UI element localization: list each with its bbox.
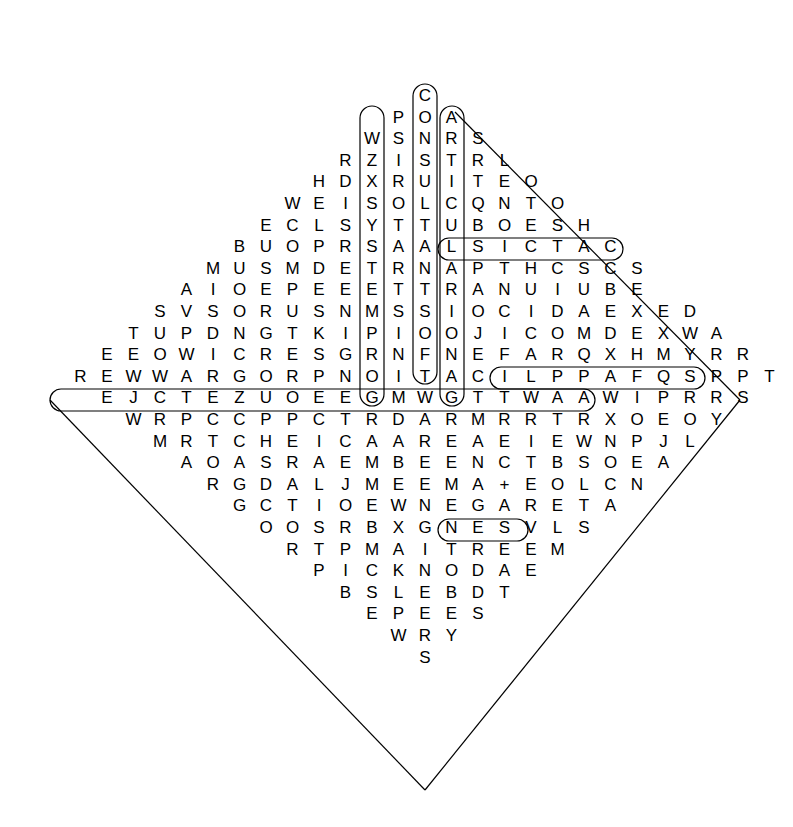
grid-letter[interactable]: U bbox=[440, 215, 464, 237]
grid-letter[interactable]: Y bbox=[678, 344, 702, 366]
grid-letter[interactable]: E bbox=[440, 495, 464, 517]
grid-letter[interactable]: R bbox=[413, 431, 437, 453]
grid-letter[interactable]: R bbox=[175, 431, 199, 453]
grid-letter[interactable]: P bbox=[307, 236, 331, 258]
grid-letter[interactable]: W bbox=[413, 387, 437, 409]
grid-letter[interactable]: U bbox=[148, 323, 172, 345]
grid-letter[interactable]: S bbox=[360, 582, 384, 604]
grid-letter[interactable]: A bbox=[413, 236, 437, 258]
grid-letter[interactable]: Y bbox=[440, 625, 464, 647]
grid-letter[interactable]: O bbox=[546, 193, 570, 215]
grid-letter[interactable]: R bbox=[360, 409, 384, 431]
grid-letter[interactable]: E bbox=[95, 344, 119, 366]
grid-letter[interactable]: O bbox=[228, 301, 252, 323]
grid-letter[interactable]: I bbox=[493, 323, 517, 345]
grid-letter[interactable]: R bbox=[254, 301, 278, 323]
grid-letter[interactable]: A bbox=[440, 258, 464, 280]
grid-letter[interactable]: C bbox=[334, 431, 358, 453]
grid-letter[interactable]: E bbox=[281, 344, 305, 366]
grid-letter[interactable]: E bbox=[413, 582, 437, 604]
grid-letter[interactable]: A bbox=[175, 279, 199, 301]
grid-letter[interactable]: R bbox=[466, 539, 490, 561]
grid-letter[interactable]: E bbox=[334, 387, 358, 409]
grid-letter[interactable]: E bbox=[625, 279, 649, 301]
grid-letter[interactable]: G bbox=[228, 474, 252, 496]
grid-letter[interactable]: C bbox=[228, 344, 252, 366]
grid-letter[interactable]: C bbox=[493, 301, 517, 323]
grid-letter[interactable]: O bbox=[281, 517, 305, 539]
grid-letter[interactable]: E bbox=[466, 517, 490, 539]
grid-letter[interactable]: X bbox=[625, 301, 649, 323]
grid-letter[interactable]: J bbox=[652, 431, 676, 453]
grid-letter[interactable]: R bbox=[572, 409, 596, 431]
grid-letter[interactable]: T bbox=[360, 258, 384, 280]
grid-letter[interactable]: O bbox=[466, 301, 490, 323]
grid-letter[interactable]: H bbox=[625, 344, 649, 366]
grid-letter[interactable]: A bbox=[387, 539, 411, 561]
grid-letter[interactable]: Q bbox=[466, 193, 490, 215]
grid-letter[interactable]: S bbox=[334, 215, 358, 237]
grid-letter[interactable]: Y bbox=[705, 409, 729, 431]
grid-letter[interactable]: R bbox=[413, 625, 437, 647]
grid-letter[interactable]: S bbox=[360, 193, 384, 215]
grid-letter[interactable]: P bbox=[175, 323, 199, 345]
grid-letter[interactable]: O bbox=[334, 495, 358, 517]
grid-letter[interactable]: R bbox=[705, 344, 729, 366]
grid-letter[interactable]: S bbox=[546, 215, 570, 237]
grid-letter[interactable]: P bbox=[572, 366, 596, 388]
grid-letter[interactable]: A bbox=[652, 452, 676, 474]
grid-letter[interactable]: T bbox=[440, 539, 464, 561]
grid-letter[interactable]: G bbox=[228, 495, 252, 517]
grid-letter[interactable]: S bbox=[307, 344, 331, 366]
grid-letter[interactable]: E bbox=[413, 452, 437, 474]
grid-letter[interactable]: H bbox=[307, 171, 331, 193]
grid-letter[interactable]: O bbox=[599, 452, 623, 474]
grid-letter[interactable]: L bbox=[307, 215, 331, 237]
grid-letter[interactable]: T bbox=[413, 215, 437, 237]
grid-letter[interactable]: L bbox=[572, 474, 596, 496]
grid-letter[interactable]: R bbox=[334, 236, 358, 258]
grid-letter[interactable]: G bbox=[334, 344, 358, 366]
grid-letter[interactable]: R bbox=[334, 150, 358, 172]
grid-letter[interactable]: W bbox=[599, 387, 623, 409]
grid-letter[interactable]: Z bbox=[228, 387, 252, 409]
grid-letter[interactable]: G bbox=[413, 517, 437, 539]
grid-letter[interactable]: E bbox=[360, 279, 384, 301]
grid-letter[interactable]: A bbox=[599, 366, 623, 388]
grid-letter[interactable]: N bbox=[413, 258, 437, 280]
grid-letter[interactable]: I bbox=[440, 171, 464, 193]
grid-letter[interactable]: E bbox=[281, 431, 305, 453]
grid-letter[interactable]: N bbox=[440, 344, 464, 366]
grid-letter[interactable]: O bbox=[413, 107, 437, 129]
grid-letter[interactable]: N bbox=[440, 517, 464, 539]
grid-letter[interactable]: S bbox=[625, 258, 649, 280]
grid-letter[interactable]: U bbox=[254, 387, 278, 409]
grid-letter[interactable]: E bbox=[440, 603, 464, 625]
grid-letter[interactable]: T bbox=[281, 323, 305, 345]
grid-letter[interactable]: S bbox=[360, 236, 384, 258]
grid-letter[interactable]: I bbox=[413, 539, 437, 561]
grid-letter[interactable]: M bbox=[440, 474, 464, 496]
grid-letter[interactable]: S bbox=[413, 150, 437, 172]
grid-letter[interactable]: E bbox=[519, 474, 543, 496]
grid-letter[interactable]: T bbox=[572, 495, 596, 517]
grid-letter[interactable]: A bbox=[493, 495, 517, 517]
grid-letter[interactable]: N bbox=[493, 279, 517, 301]
grid-letter[interactable]: P bbox=[360, 323, 384, 345]
grid-letter[interactable]: I bbox=[307, 495, 331, 517]
grid-letter[interactable]: S bbox=[387, 301, 411, 323]
grid-letter[interactable]: I bbox=[387, 323, 411, 345]
grid-letter[interactable]: N bbox=[228, 323, 252, 345]
grid-letter[interactable]: O bbox=[387, 193, 411, 215]
grid-letter[interactable]: I bbox=[387, 366, 411, 388]
grid-letter[interactable]: E bbox=[360, 495, 384, 517]
grid-letter[interactable]: O bbox=[254, 366, 278, 388]
grid-letter[interactable]: P bbox=[652, 387, 676, 409]
grid-letter[interactable]: P bbox=[387, 603, 411, 625]
grid-letter[interactable]: S bbox=[148, 301, 172, 323]
grid-letter[interactable]: P bbox=[334, 539, 358, 561]
grid-letter[interactable]: L bbox=[678, 431, 702, 453]
grid-letter[interactable]: O bbox=[625, 409, 649, 431]
grid-letter[interactable]: K bbox=[387, 560, 411, 582]
grid-letter[interactable]: E bbox=[360, 603, 384, 625]
